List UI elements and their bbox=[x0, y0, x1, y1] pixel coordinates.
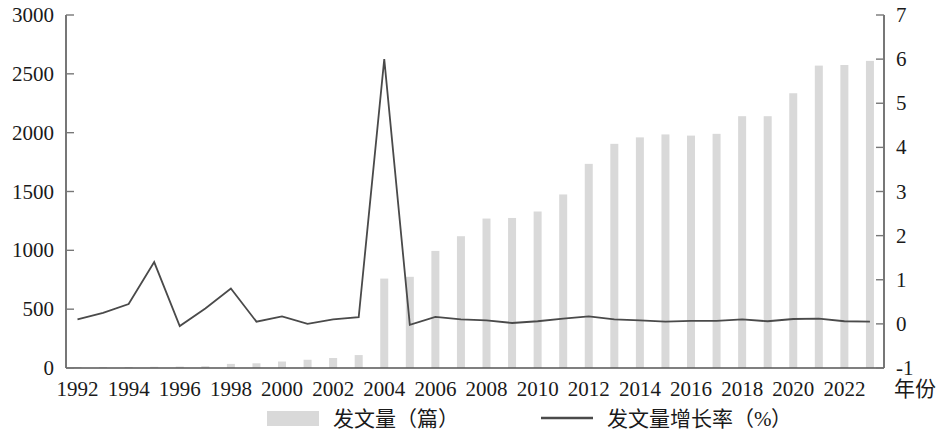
right-axis-label-3: 3 bbox=[896, 180, 907, 204]
bar-2013 bbox=[610, 144, 618, 368]
x-axis-label-2022: 2022 bbox=[823, 377, 865, 401]
bar-2015 bbox=[661, 134, 669, 368]
bar-2014 bbox=[636, 137, 644, 368]
bar-2002 bbox=[329, 358, 337, 368]
left-axis-label-0: 0 bbox=[44, 356, 55, 380]
x-axis-tick-labels: 1992199419961998200020022004200620082010… bbox=[57, 377, 866, 401]
axes-group bbox=[66, 15, 884, 368]
bar-2018 bbox=[738, 116, 746, 368]
x-axis-label-2020: 2020 bbox=[772, 377, 814, 401]
left-axis-label-1000: 1000 bbox=[12, 238, 54, 262]
x-axis-label-1994: 1994 bbox=[108, 377, 151, 401]
legend-label-growth-rate: 发文量增长率（%） bbox=[607, 407, 793, 431]
x-axis-label-2008: 2008 bbox=[466, 377, 508, 401]
bar-2000 bbox=[278, 362, 286, 368]
bar-2016 bbox=[687, 136, 695, 368]
bar-2008 bbox=[483, 219, 491, 368]
bar-2006 bbox=[431, 251, 439, 368]
right-axis-tick-labels: -101234567 bbox=[896, 3, 914, 380]
bar-2003 bbox=[355, 355, 363, 368]
x-axis-label-2014: 2014 bbox=[619, 377, 662, 401]
chart-figure: 050010001500200025003000 -101234567 1992… bbox=[0, 0, 951, 440]
growth-line-group bbox=[78, 59, 870, 326]
x-axis-label-1996: 1996 bbox=[159, 377, 201, 401]
left-axis-label-500: 500 bbox=[23, 297, 55, 321]
right-axis-label-1: 1 bbox=[896, 268, 907, 292]
x-axis-label-1992: 1992 bbox=[57, 377, 99, 401]
x-axis-label-2006: 2006 bbox=[414, 377, 456, 401]
bar-2019 bbox=[764, 116, 772, 368]
legend-swatch-bar bbox=[267, 411, 319, 426]
bar-2007 bbox=[457, 236, 465, 368]
x-axis-label-2018: 2018 bbox=[721, 377, 763, 401]
bar-2004 bbox=[380, 279, 388, 368]
x-axis-label-1998: 1998 bbox=[210, 377, 252, 401]
bars-group bbox=[74, 61, 874, 368]
left-axis-label-2000: 2000 bbox=[12, 121, 54, 145]
bar-2009 bbox=[508, 218, 516, 368]
growth-rate-line bbox=[78, 59, 870, 326]
x-axis-label-2012: 2012 bbox=[568, 377, 610, 401]
bar-2010 bbox=[534, 212, 542, 369]
left-axis-label-1500: 1500 bbox=[12, 180, 54, 204]
right-axis-label-2: 2 bbox=[896, 224, 907, 248]
x-axis-label-2004: 2004 bbox=[363, 377, 406, 401]
right-axis-label-7: 7 bbox=[896, 3, 907, 27]
bar-2021 bbox=[815, 66, 823, 368]
bar-2001 bbox=[304, 360, 312, 368]
chart-legend: 发文量（篇）发文量增长率（%） bbox=[267, 407, 793, 431]
right-axis-label-4: 4 bbox=[896, 135, 907, 159]
x-axis-label-2002: 2002 bbox=[312, 377, 354, 401]
bar-2017 bbox=[713, 134, 721, 368]
x-axis-title: 年份 bbox=[894, 377, 936, 401]
publication-trend-chart: 050010001500200025003000 -101234567 1992… bbox=[0, 0, 951, 440]
x-axis-label-2016: 2016 bbox=[670, 377, 712, 401]
left-axis-label-2500: 2500 bbox=[12, 62, 54, 86]
bar-2020 bbox=[789, 93, 797, 368]
right-axis-label-6: 6 bbox=[896, 47, 907, 71]
x-axis-label-2000: 2000 bbox=[261, 377, 303, 401]
right-axis-label-0: 0 bbox=[896, 312, 907, 336]
bar-2022 bbox=[840, 65, 848, 368]
left-axis-label-3000: 3000 bbox=[12, 3, 54, 27]
left-axis-tick-labels: 050010001500200025003000 bbox=[12, 3, 54, 380]
x-axis-title-text: 年份 bbox=[894, 377, 936, 401]
x-axis-label-2010: 2010 bbox=[517, 377, 559, 401]
bar-2011 bbox=[559, 194, 567, 368]
legend-label-publications: 发文量（篇） bbox=[333, 407, 459, 431]
bar-2012 bbox=[585, 164, 593, 368]
right-axis-label-5: 5 bbox=[896, 91, 907, 115]
